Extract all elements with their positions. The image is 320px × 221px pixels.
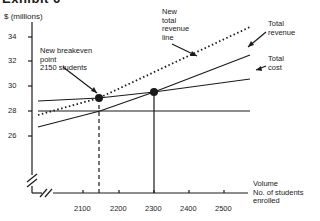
original-breakeven-point — [150, 88, 158, 96]
new-breakeven-point — [95, 94, 103, 102]
chart-plot — [0, 0, 320, 221]
total-cost-line — [38, 79, 250, 101]
new-total-revenue-line — [38, 27, 250, 115]
total-revenue-line — [38, 55, 250, 127]
